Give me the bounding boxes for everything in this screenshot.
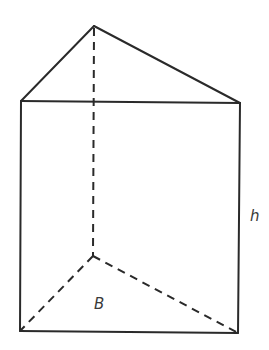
top-edge-left [21, 26, 94, 101]
height-label: h [250, 207, 260, 225]
vertical-edge-left [20, 101, 21, 331]
base-label: B [94, 295, 104, 313]
vertical-edge-right [238, 103, 240, 333]
prism-drawing: B h [0, 0, 269, 350]
triangular-prism-diagram: B h [0, 0, 269, 350]
bottom-edge-front [20, 331, 238, 333]
hidden-bottom-edge-right [93, 256, 238, 333]
hidden-bottom-edge-left [20, 256, 93, 331]
hidden-vertical-edge [93, 28, 94, 256]
top-edge-right [94, 26, 240, 103]
top-edge-front [21, 101, 240, 103]
